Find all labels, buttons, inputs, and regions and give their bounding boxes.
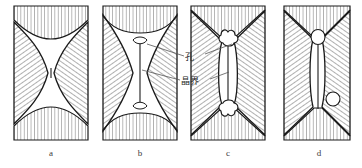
annotation-label-grain-boundary: 晶界 bbox=[181, 74, 199, 87]
panel-b bbox=[103, 6, 177, 140]
annotation-label-pore: 孔 bbox=[185, 50, 194, 63]
panel-c bbox=[191, 6, 265, 140]
panel-b-top-grain bbox=[103, 6, 177, 33]
panel-caption-b: b bbox=[128, 148, 152, 158]
panel-d-junction-pore bbox=[311, 30, 325, 45]
figure-canvas: 孔 晶界 a b c d bbox=[0, 0, 362, 168]
panel-d-intragranular-pore bbox=[326, 92, 340, 106]
panel-caption-a: a bbox=[39, 148, 63, 158]
panel-b-lower-pore bbox=[133, 102, 147, 109]
panel-b-bottom-grain bbox=[103, 113, 177, 140]
panel-b-upper-pore bbox=[133, 37, 147, 44]
panel-caption-d: d bbox=[307, 148, 331, 158]
panel-d bbox=[284, 6, 350, 140]
panel-caption-c: c bbox=[216, 148, 240, 158]
panel-a bbox=[14, 6, 88, 140]
